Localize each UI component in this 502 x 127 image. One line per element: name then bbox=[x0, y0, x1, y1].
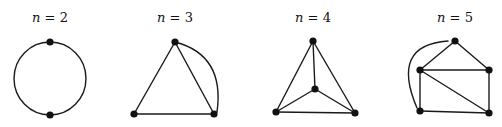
graph-figure: n = 2 n = 3 n = 4 n = 5 bbox=[0, 0, 502, 127]
label-var: n bbox=[157, 10, 165, 25]
label-n3: n = 3 bbox=[157, 10, 193, 25]
label-eq: = bbox=[445, 10, 464, 25]
edge bbox=[420, 70, 489, 113]
vertex bbox=[46, 111, 53, 118]
vertex bbox=[451, 37, 458, 44]
label-value: 2 bbox=[60, 10, 68, 25]
label-value: 5 bbox=[465, 10, 473, 25]
label-eq: = bbox=[40, 10, 59, 25]
vertex bbox=[485, 66, 492, 73]
edge bbox=[315, 89, 355, 113]
curved-edge bbox=[14, 42, 50, 115]
vertex bbox=[351, 109, 358, 116]
graph-n3 bbox=[130, 38, 218, 117]
graph-n5 bbox=[408, 37, 492, 116]
vertex bbox=[311, 85, 318, 92]
label-var: n bbox=[295, 10, 303, 25]
graph-n4 bbox=[272, 37, 358, 116]
edge bbox=[175, 42, 214, 114]
label-n5: n = 5 bbox=[437, 10, 473, 25]
vertex bbox=[416, 107, 423, 114]
edge bbox=[276, 112, 355, 113]
label-value: 4 bbox=[323, 10, 331, 25]
edge bbox=[420, 111, 489, 113]
vertex bbox=[210, 110, 217, 117]
label-n2: n = 2 bbox=[32, 10, 68, 25]
vertex bbox=[171, 38, 178, 45]
vertex bbox=[309, 37, 316, 44]
edge bbox=[313, 41, 315, 89]
edge bbox=[313, 41, 355, 113]
label-n4: n = 4 bbox=[295, 10, 331, 25]
vertex bbox=[485, 109, 492, 116]
label-eq: = bbox=[303, 10, 322, 25]
label-var: n bbox=[437, 10, 445, 25]
panel-n4: n = 4 bbox=[272, 10, 358, 117]
label-eq: = bbox=[165, 10, 184, 25]
curved-edge bbox=[50, 42, 86, 115]
vertex bbox=[130, 110, 137, 117]
label-var: n bbox=[32, 10, 40, 25]
edge bbox=[455, 41, 489, 70]
graph-n2 bbox=[14, 38, 86, 118]
edge bbox=[420, 41, 455, 70]
label-value: 3 bbox=[185, 10, 193, 25]
panel-n5: n = 5 bbox=[408, 10, 492, 117]
panel-n2: n = 2 bbox=[14, 10, 86, 119]
panel-n3: n = 3 bbox=[130, 10, 218, 118]
vertex bbox=[272, 108, 279, 115]
vertex bbox=[46, 38, 53, 45]
edge bbox=[134, 42, 175, 114]
vertex bbox=[416, 66, 423, 73]
